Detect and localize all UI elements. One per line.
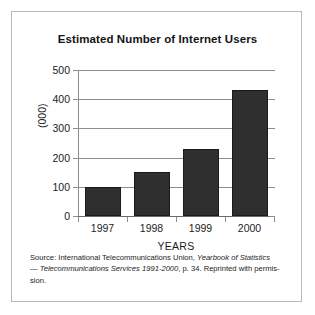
caption-dash: —: [30, 264, 40, 273]
figure-border-frame: Estimated Number of Internet Users (000)…: [11, 11, 302, 302]
x-tick-label-1997: 1997: [78, 222, 127, 234]
bar-1999: [183, 149, 219, 216]
y-tick-label: 200: [36, 152, 70, 164]
x-tick-label-2000: 2000: [225, 222, 274, 234]
caption-line-3: sion.: [30, 275, 288, 286]
caption-services-italic: Telecommunications Services 1991-2000: [40, 264, 179, 273]
caption-yearbook-italic: Yearbook of Statistics: [197, 253, 270, 262]
x-axis-title: YEARS: [78, 240, 274, 252]
y-tick-mark: [73, 158, 78, 159]
bar-1998: [134, 172, 170, 216]
bar-1997: [85, 187, 121, 216]
y-tick-label: 400: [36, 93, 70, 105]
x-tick-label-1998: 1998: [127, 222, 176, 234]
y-tick-label: 500: [36, 64, 70, 76]
bars-group: [79, 70, 274, 216]
x-tick-labels-group: 1997199819992000: [78, 222, 274, 234]
caption-line-1: Source: International Telecommunications…: [30, 252, 288, 263]
caption-page-text: , p. 34. Reprinted with permis-: [178, 264, 279, 273]
y-tick-label: 0: [36, 210, 70, 222]
bar-slot: [128, 70, 177, 216]
caption-source-text: Source: International Telecommunications…: [30, 253, 197, 262]
plot-area: 0100200300400500: [78, 70, 274, 217]
y-tick-label: 100: [36, 181, 70, 193]
bar-slot: [225, 70, 274, 216]
bar-2000: [232, 90, 268, 216]
source-caption: Source: International Telecommunications…: [30, 252, 288, 286]
y-tick-mark: [73, 128, 78, 129]
y-tick-label: 300: [36, 122, 70, 134]
y-tick-mark: [73, 187, 78, 188]
chart-title: Estimated Number of Internet Users: [12, 33, 303, 45]
y-tick-mark: [73, 70, 78, 71]
x-tick-label-1999: 1999: [176, 222, 225, 234]
bar-slot: [79, 70, 128, 216]
x-tick-mark: [274, 217, 275, 222]
bar-slot: [177, 70, 226, 216]
figure-container: Estimated Number of Internet Users (000)…: [0, 0, 315, 315]
caption-line-2: — Telecommunications Services 1991-2000,…: [30, 263, 288, 274]
y-tick-mark: [73, 99, 78, 100]
